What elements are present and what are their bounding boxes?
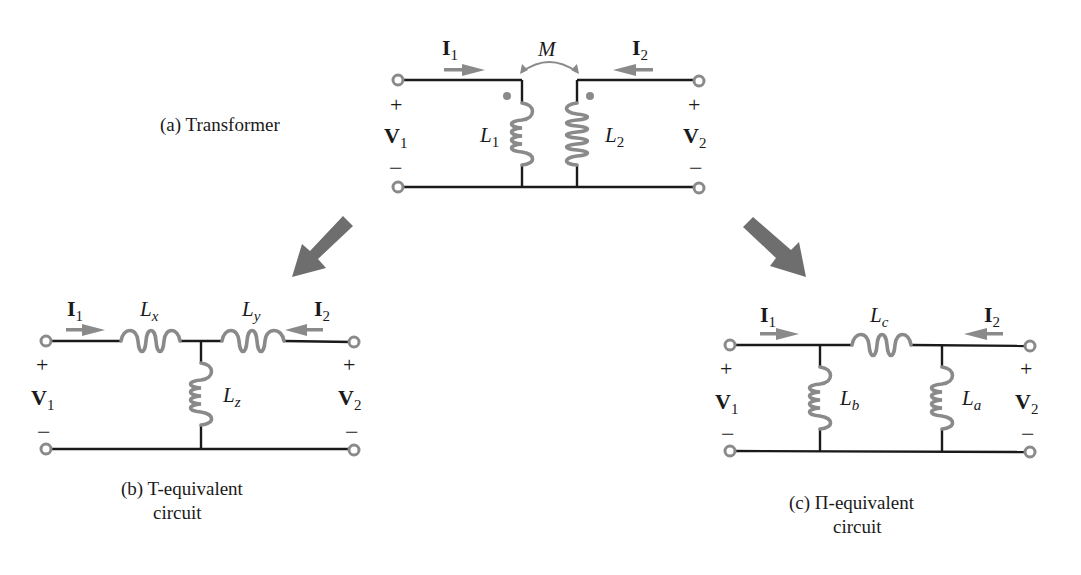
caption-t-equivalent-2: circuit — [153, 502, 202, 523]
label-lc: Lc — [869, 303, 889, 330]
label-l1: L1 — [479, 123, 499, 150]
label-lb: Lb — [839, 386, 860, 413]
label-lx: Lx — [139, 297, 159, 324]
label-plus-2: + — [688, 92, 700, 117]
label-v2: V2 — [338, 385, 361, 413]
label-minus-1: − — [389, 155, 403, 181]
terminal — [41, 336, 51, 346]
label-i1: I1 — [67, 296, 83, 324]
arrow-to-pi-equivalent — [743, 217, 806, 277]
label-v1: V1 — [715, 389, 738, 417]
arrow-to-t-equivalent — [292, 216, 353, 277]
label-plus-1: + — [390, 92, 402, 117]
terminal — [1025, 447, 1035, 457]
label-minus-1: − — [37, 419, 51, 445]
pi-equivalent-circuit: I1 I2 Lc Lb La + + V1 V2 − − (c) Π-equiv… — [715, 302, 1038, 537]
label-ly: Ly — [241, 297, 261, 324]
label-minus-1: − — [721, 421, 735, 447]
terminal — [694, 76, 704, 86]
label-plus-2: + — [1020, 356, 1032, 381]
inductor-lb — [810, 367, 831, 429]
terminal — [1025, 341, 1035, 351]
label-i1: I1 — [760, 302, 776, 330]
polarity-dot-1 — [503, 92, 511, 100]
label-v1: V1 — [384, 123, 407, 151]
terminal — [349, 445, 359, 455]
transformer-circuit: I1 I2 M L1 L2 + + V1 V2 − − (a) Transfor… — [160, 35, 706, 193]
label-plus-1: + — [36, 352, 48, 377]
caption-t-equivalent-1: (b) T-equivalent — [121, 478, 244, 500]
t-equivalent-circuit: I1 I2 Lx Ly Lz + + V1 V2 − − (b) T-equiv… — [31, 296, 361, 523]
inductor-l1 — [512, 103, 533, 165]
label-plus-2: + — [343, 352, 355, 377]
label-minus-2: − — [689, 155, 703, 181]
current-arrow-i2 — [285, 324, 323, 336]
caption-transformer: (a) Transformer — [160, 114, 280, 136]
label-i2: I2 — [984, 302, 1000, 330]
inductor-la — [932, 367, 953, 429]
current-arrow-i1 — [66, 324, 105, 336]
inductor-l2 — [567, 103, 588, 165]
label-v2: V2 — [683, 123, 706, 151]
current-arrow-i1 — [444, 64, 485, 76]
caption-pi-equivalent-1: (c) Π-equivalent — [789, 492, 915, 514]
inductor-lx — [121, 331, 180, 352]
label-plus-1: + — [720, 356, 732, 381]
terminal — [725, 340, 735, 350]
terminal — [41, 444, 51, 454]
label-i2: I2 — [314, 296, 330, 324]
inductor-lc — [852, 335, 911, 356]
label-minus-2: − — [345, 419, 359, 445]
label-la: La — [961, 386, 981, 413]
terminal — [725, 446, 735, 456]
label-lz: Lz — [222, 383, 241, 410]
polarity-dot-2 — [586, 92, 594, 100]
inductor-ly — [222, 331, 284, 352]
circuit-diagram: I1 I2 M L1 L2 + + V1 V2 − − (a) Transfor… — [0, 0, 1081, 575]
label-minus-2: − — [1021, 421, 1035, 447]
label-v1: V1 — [31, 385, 54, 413]
label-l2: L2 — [604, 123, 624, 150]
caption-pi-equivalent-2: circuit — [833, 516, 882, 537]
inductor-lz — [191, 363, 212, 425]
label-i2: I2 — [632, 35, 648, 63]
label-i1: I1 — [442, 35, 458, 63]
terminal — [393, 75, 403, 85]
terminal — [393, 182, 403, 192]
current-arrow-i2 — [613, 64, 653, 76]
current-arrow-i1 — [760, 328, 799, 340]
terminal — [349, 337, 359, 347]
label-mutual: M — [537, 37, 557, 61]
mutual-arc — [522, 62, 577, 72]
terminal — [694, 183, 704, 193]
label-v2: V2 — [1015, 389, 1038, 417]
